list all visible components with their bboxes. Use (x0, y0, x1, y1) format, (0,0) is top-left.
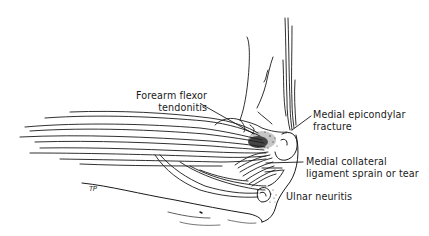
label-medial-epicondylar-fracture: Medial epicondylar fracture (313, 109, 405, 132)
label-forearm-flexor-line1: Forearm flexor (136, 90, 207, 102)
artist-signature: TP (89, 185, 97, 193)
label-medial-collateral-ligament: Medial collateral ligament sprain or tea… (306, 156, 419, 179)
label-ulnar-neuritis: Ulnar neuritis (286, 191, 352, 203)
label-forearm-flexor-tendonitis: Forearm flexor tendonitis (136, 90, 207, 113)
label-ulnar-line1: Ulnar neuritis (286, 191, 352, 203)
medial-epicondyle (275, 132, 297, 160)
tendonitis-stipple (248, 131, 278, 149)
leader-medial-epicondylar (292, 116, 311, 130)
elbow-injury-illustration: Forearm flexor tendonitis Medial epicond… (0, 0, 429, 236)
upper-arm-tendons (283, 18, 296, 130)
label-epicondylar-line1: Medial epicondylar (313, 109, 405, 121)
label-mcl-line2: ligament sprain or tear (306, 168, 419, 180)
forearm-lower-outline (82, 183, 262, 225)
label-epicondylar-line2: fracture (313, 121, 405, 133)
label-forearm-flexor-line2: tendonitis (136, 102, 207, 114)
label-mcl-line1: Medial collateral (306, 156, 419, 168)
humerus-condyle (215, 112, 287, 134)
upper-arm-outline (240, 37, 273, 120)
